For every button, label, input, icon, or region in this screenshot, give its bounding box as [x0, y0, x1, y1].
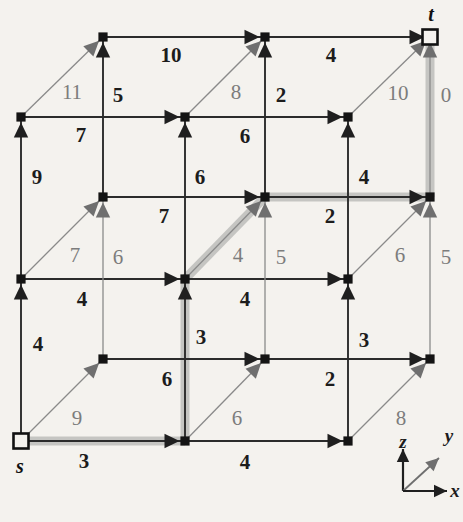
- edge-weight-label: 6: [240, 126, 251, 147]
- edge-arrowhead: [245, 352, 260, 366]
- edge-arrowhead: [178, 285, 192, 300]
- lattice-node[interactable]: [16, 112, 25, 121]
- lattice-node[interactable]: [343, 436, 352, 445]
- edge-weight-label: 7: [76, 125, 87, 146]
- edge-weight-label: 8: [396, 408, 407, 429]
- lattice-node[interactable]: [343, 112, 352, 121]
- lattice-node[interactable]: [425, 192, 434, 201]
- sink-node-label: t: [428, 3, 434, 26]
- edge-weight-label: 4: [77, 289, 88, 310]
- lattice-node[interactable]: [260, 192, 269, 201]
- edge-weight-label: 5: [113, 85, 124, 106]
- edge-weight-label: 6: [195, 167, 206, 188]
- lattice-graph-figure: 104726276443449363465525097116488610stzy…: [0, 0, 463, 522]
- terminal-node[interactable]: [14, 434, 29, 449]
- lattice-node[interactable]: [180, 274, 189, 283]
- axis-legend-layer: [397, 449, 447, 497]
- edge-weight-label: 4: [240, 289, 251, 310]
- edge-arrowhead: [14, 123, 28, 138]
- axis-label-x: x: [450, 480, 460, 502]
- edge-weight-label: 2: [325, 206, 336, 227]
- edge-weight-label: 4: [240, 452, 251, 473]
- edge-arrowhead: [328, 110, 343, 124]
- edge-weight-label: 6: [232, 408, 243, 429]
- edge-arrowhead: [258, 43, 272, 58]
- edge-weight-label: 4: [233, 245, 244, 266]
- edge-weight-label: 3: [196, 327, 207, 348]
- lattice-node[interactable]: [425, 354, 434, 363]
- edge-weight-label: 4: [326, 45, 337, 66]
- edge-weight-label: 7: [70, 245, 81, 266]
- edge-arrowhead: [178, 123, 192, 138]
- edge-arrowhead: [423, 203, 437, 218]
- edge-weight-label: 2: [325, 369, 336, 390]
- lattice-node[interactable]: [16, 274, 25, 283]
- edge-weight-label: 6: [395, 245, 406, 266]
- edge-weight-label: 4: [33, 334, 44, 355]
- edge-weight-label: 2: [276, 85, 287, 106]
- edge-arrowhead: [410, 190, 425, 204]
- edge-weight-label: 9: [72, 408, 83, 429]
- edge-weight-label: 10: [161, 45, 182, 66]
- edge-weight-label: 6: [162, 369, 173, 390]
- edge-weight-label: 0: [441, 85, 452, 106]
- edge-arrowhead: [165, 110, 180, 124]
- lattice-node[interactable]: [98, 354, 107, 363]
- edge-arrowhead: [96, 43, 110, 58]
- edge-weight-label: 8: [231, 82, 242, 103]
- edge-weight-label: 5: [276, 247, 287, 268]
- lattice-node[interactable]: [180, 436, 189, 445]
- edge-weight-label: 6: [113, 247, 124, 268]
- edge-arrowhead: [165, 272, 180, 286]
- lattice-node[interactable]: [98, 192, 107, 201]
- axis-arrow-x-head: [434, 485, 447, 497]
- edge-weight-label: 3: [359, 330, 370, 351]
- edge-weight-label: 11: [62, 82, 82, 103]
- axis-label-y: y: [445, 425, 453, 447]
- edge-arrowhead: [328, 272, 343, 286]
- lattice-node[interactable]: [343, 274, 352, 283]
- edge-weight-label: 5: [441, 247, 452, 268]
- source-node-label: s: [16, 455, 24, 478]
- terminal-node[interactable]: [423, 30, 438, 45]
- edge-arrowhead: [96, 203, 110, 218]
- edge-arrowhead: [341, 123, 355, 138]
- edge-weight-label: 7: [159, 206, 170, 227]
- edge-weight-label: 9: [32, 167, 43, 188]
- edge-arrowhead: [341, 285, 355, 300]
- edge-weight-label: 4: [359, 167, 370, 188]
- lattice-node[interactable]: [260, 354, 269, 363]
- lattice-node[interactable]: [260, 32, 269, 41]
- lattice-node[interactable]: [180, 112, 189, 121]
- edge-arrowhead: [328, 434, 343, 448]
- edge-arrowhead: [410, 352, 425, 366]
- lattice-node[interactable]: [98, 32, 107, 41]
- axis-label-z: z: [399, 431, 406, 453]
- edge-weight-label: 10: [388, 83, 409, 104]
- edge-weight-label: 3: [79, 451, 90, 472]
- edge-arrowhead: [165, 434, 180, 448]
- edge-arrowhead: [14, 285, 28, 300]
- edge-arrowhead: [245, 30, 260, 44]
